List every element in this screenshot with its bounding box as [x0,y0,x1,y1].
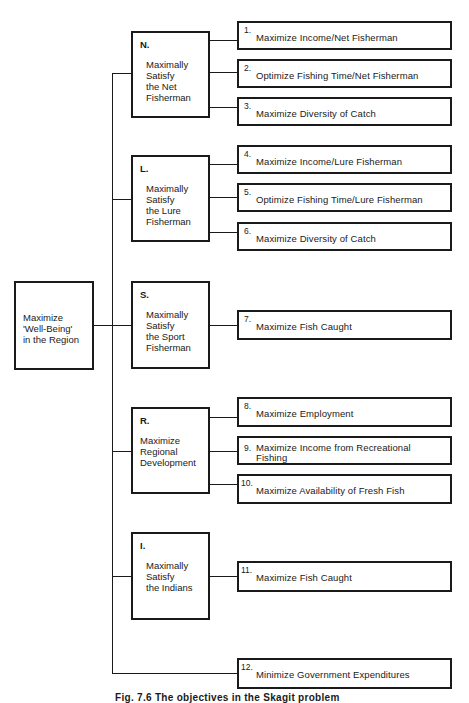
objective-label: Maximize Income from Recreational Fishin… [256,443,411,463]
root-objective-label: Maximize 'Well-Being' in the Region [23,312,79,345]
branch-box-s: S. Maximally Satisfy the Sport Fisherman [131,281,210,369]
branch-box-l: L. Maximally Satisfy the Lure Fisherman [131,155,210,242]
s-to-7-line [209,325,237,326]
r-to-10-line [209,484,237,485]
r-to-8-line [209,417,237,418]
objective-box-6: 6. Maximize Diversity of Catch [237,222,452,251]
objective-box-8: 8. Maximize Employment [237,397,452,427]
objective-number: 3. [244,101,251,111]
objective-box-5: 5. Optimize Fishing Time/Lure Fisherman [237,183,452,212]
objective-number: 1. [244,25,251,35]
objective-box-4: 4. Maximize Income/Lure Fisherman [237,145,452,174]
objective-box-11: 11. Maximize Fish Caught [237,561,452,592]
figure-caption: Fig. 7.6 The objectives in the Skagit pr… [115,692,340,703]
branch-letter: R. [140,415,150,426]
objective-number: 11. [241,565,252,575]
objective-number: 9. [244,443,251,453]
objective-label: Maximize Income/Lure Fisherman [256,157,402,167]
branch-letter: I. [140,540,145,551]
branch-label: Maximally Satisfy the Net Fisherman [146,59,191,103]
branch-letter: S. [140,289,149,300]
branch-label: Maximally Satisfy the Lure Fisherman [146,183,191,227]
objective-label: Maximize Diversity of Catch [256,234,376,244]
objective-number: 2. [244,63,251,73]
n-to-1-line [209,40,237,41]
trunk-to-n-line [112,73,131,74]
objective-box-10: 10. Maximize Availability of Fresh Fish [237,474,452,504]
trunk-to-r-line [112,451,131,452]
branch-label: Maximally Satisfy the Sport Fisherman [146,309,191,353]
objective-box-7: 7. Maximize Fish Caught [237,310,452,340]
branch-box-i: I. Maximally Satisfy the Indians [131,532,210,620]
objective-box-1: 1. Maximize Income/Net Fisherman [237,21,452,50]
objective-label: Minimize Government Expenditures [256,670,410,680]
objective-box-12: 12. Minimize Government Expenditures [237,658,452,689]
branch-letter: L. [140,163,148,174]
objective-label: Maximize Availability of Fresh Fish [256,486,405,496]
objective-label: Maximize Diversity of Catch [256,109,376,119]
r-to-9-line [209,451,237,452]
objective-number: 10. [241,478,253,488]
n-to-3-line [209,107,237,108]
branch-box-r: R. Maximize Regional Development [131,407,210,494]
objective-label: Optimize Fishing Time/Net Fisherman [256,71,418,81]
branch-letter: N. [140,39,150,50]
l-to-6-line [209,232,237,233]
objective-box-3: 3. Maximize Diversity of Catch [237,97,452,126]
objective-number: 8. [244,401,251,411]
objective-label: Maximize Fish Caught [256,322,352,332]
objective-number: 5. [244,187,251,197]
objective-number: 12. [241,662,253,672]
objective-label: Optimize Fishing Time/Lure Fisherman [256,195,423,205]
objective-label: Maximize Fish Caught [256,573,352,583]
l-to-5-line [209,197,237,198]
objective-label: Maximize Income/Net Fisherman [256,33,398,43]
objective-label: Maximize Employment [256,409,353,419]
l-to-4-line [209,164,237,165]
branch-label: Maximize Regional Development [140,435,196,468]
objective-number: 6. [244,226,251,236]
i-to-11-line [209,576,237,577]
objective-number: 4. [244,149,251,159]
branch-box-n: N. Maximally Satisfy the Net Fisherman [131,31,210,118]
trunk-to-i-line [112,576,131,577]
trunk-to-l-line [112,199,131,200]
branch-label: Maximally Satisfy the Indians [146,560,192,593]
objective-box-2: 2. Optimize Fishing Time/Net Fisherman [237,59,452,88]
root-objective-box: Maximize 'Well-Being' in the Region [14,281,94,370]
main-trunk-line [112,73,113,674]
trunk-to-12-line [112,673,237,674]
root-connector-line [93,325,131,326]
objective-number: 7. [244,314,251,324]
n-to-2-line [209,72,237,73]
objective-box-9: 9. Maximize Income from Recreational Fis… [237,436,452,465]
